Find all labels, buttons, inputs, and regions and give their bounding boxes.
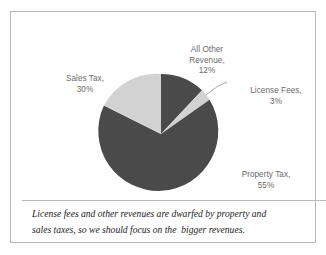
- pie-chart-area: All Other Revenue, 12% License Fees, 3% …: [22, 24, 326, 206]
- pie-label-license-fees: License Fees, 3%: [236, 86, 316, 107]
- pie-chart-screenshot: All Other Revenue, 12% License Fees, 3% …: [0, 0, 326, 255]
- chart-frame: All Other Revenue, 12% License Fees, 3% …: [10, 11, 316, 243]
- license-fees-leader-line: [206, 82, 227, 95]
- pie-label-property-tax: Property Tax, 55%: [224, 170, 308, 191]
- caption-line-1: License fees and other revenues are dwar…: [32, 206, 318, 222]
- pie-label-all-other-revenue: All Other Revenue, 12%: [172, 45, 242, 77]
- pie-label-sales-tax: Sales Tax, 30%: [48, 74, 122, 95]
- caption-line-2: sales taxes, so we should focus on the b…: [32, 222, 318, 238]
- caption-divider: [22, 200, 326, 201]
- chart-caption: License fees and other revenues are dwar…: [32, 206, 318, 237]
